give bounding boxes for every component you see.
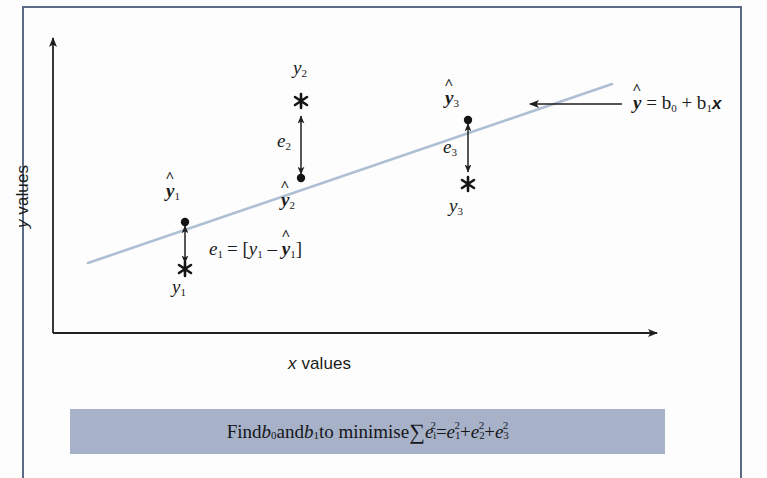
residual-eq-yhat-subscript: 1 — [290, 248, 296, 260]
x-axis-label: x values — [288, 355, 351, 372]
residual-eq-close-bracket: ] — [296, 238, 302, 259]
summary-box: Find b0 and b1 to minimise ∑ei2 = e12 + … — [70, 409, 665, 454]
fitted-point-3 — [464, 116, 472, 124]
fitted-label-3: y3 — [445, 88, 459, 107]
summary-e1-superscript: 2 — [455, 419, 461, 431]
summary-find-text: Find — [227, 421, 262, 443]
y-axis-label: y values — [14, 165, 31, 228]
residual-eq-equals: = [ — [227, 238, 249, 259]
summary-formula: Find b0 and b1 to minimise ∑ei2 = e12 + … — [70, 409, 665, 454]
observed-point-2-star — [295, 94, 307, 108]
y2-subscript: 2 — [301, 67, 307, 79]
yhat1-subscript: 1 — [174, 190, 180, 202]
residual-label-1: e1 — [209, 239, 223, 258]
summary-e2-superscript: 2 — [479, 419, 485, 431]
summary-b0-subscript: 0 — [271, 429, 277, 441]
e2-subscript: 2 — [285, 140, 291, 152]
observed-point-1-star — [179, 262, 191, 276]
yhat2-subscript: 2 — [289, 199, 295, 211]
regression-residual-figure: y values x values y = b0 + b1x y1 y2 y3 … — [0, 0, 767, 478]
yhat-symbol: y — [633, 93, 641, 112]
summary-b1: b — [304, 421, 314, 443]
summary-b1-subscript: 1 — [313, 429, 319, 441]
residual-eq-y: y — [249, 238, 257, 259]
x-axis-label-variable: x — [288, 354, 297, 373]
observed-label-2: y2 — [293, 58, 307, 77]
residual-label-2: e2 — [277, 131, 291, 150]
observed-point-3-star — [462, 177, 474, 191]
equation-b0-subscript: 0 — [671, 102, 677, 114]
y1-subscript: 1 — [180, 286, 186, 298]
summary-plus-1: + — [460, 421, 471, 443]
equation-x-variable: x — [712, 94, 721, 113]
equation-plus: + b — [677, 92, 707, 113]
summary-e3-superscript: 2 — [503, 419, 509, 431]
summary-equals: = — [436, 421, 447, 443]
summary-sigma-icon: ∑ — [409, 419, 425, 445]
residual-eq-yhat: y — [282, 239, 290, 258]
observed-label-1: y1 — [172, 277, 186, 296]
y3-subscript: 3 — [457, 205, 463, 217]
fitted-point-2 — [297, 174, 305, 182]
yhat3-subscript: 3 — [453, 97, 459, 109]
x-axis-label-text: values — [297, 354, 352, 373]
fitted-label-2: y2 — [281, 190, 295, 209]
summary-and-text: and — [277, 421, 304, 443]
regression-equation-label: y = b0 + b1x — [633, 93, 721, 112]
fitted-point-1 — [181, 218, 189, 226]
residual-definition-equation: = [y1 – y1] — [227, 239, 302, 258]
observed-label-3: y3 — [449, 196, 463, 215]
summary-minimise-text: to minimise — [319, 421, 409, 443]
e3-subscript: 3 — [451, 146, 457, 158]
y-axis-label-variable: y — [13, 219, 32, 228]
summary-sum-superscript: 2 — [430, 419, 436, 431]
equation-equals: = b — [641, 92, 671, 113]
residual-eq-minus: – — [263, 238, 282, 259]
plot-canvas — [0, 0, 767, 478]
equation-b1-subscript: 1 — [706, 102, 712, 114]
y-axis-label-text: values — [13, 165, 32, 220]
residual-eq-y-subscript: 1 — [257, 248, 263, 260]
residual-label-3: e3 — [443, 137, 457, 156]
fitted-label-1: y1 — [166, 181, 180, 200]
e1-subscript: 1 — [217, 248, 223, 260]
summary-plus-2: + — [484, 421, 495, 443]
summary-b0: b — [262, 421, 272, 443]
